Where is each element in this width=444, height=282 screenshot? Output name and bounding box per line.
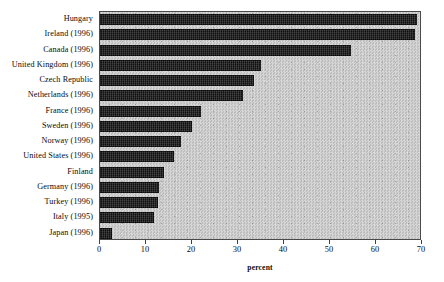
bar-row bbox=[100, 73, 421, 88]
bar-row bbox=[100, 58, 421, 73]
bar bbox=[100, 121, 192, 132]
bar-row bbox=[100, 134, 421, 149]
bar-row bbox=[100, 180, 421, 195]
x-axis-tick bbox=[421, 240, 422, 244]
bar bbox=[100, 212, 154, 223]
bar bbox=[100, 45, 351, 56]
category-label: United States (1996) bbox=[0, 148, 93, 163]
bar bbox=[100, 182, 159, 193]
x-axis-title: percent bbox=[99, 256, 421, 274]
x-axis-tick bbox=[145, 240, 146, 244]
bar-row bbox=[100, 165, 421, 180]
bar bbox=[100, 14, 417, 25]
bar-row bbox=[100, 195, 421, 210]
category-label: United Kingdom (1996) bbox=[0, 57, 93, 72]
bar bbox=[100, 228, 112, 239]
bar-row bbox=[100, 149, 421, 164]
category-label: Norway (1996) bbox=[0, 133, 93, 148]
x-axis-tick bbox=[283, 240, 284, 244]
category-label: Netherlands (1996) bbox=[0, 87, 93, 102]
x-axis-title-label: percent bbox=[247, 263, 272, 272]
x-axis-tick-label: 50 bbox=[314, 245, 344, 255]
bar-row bbox=[100, 210, 421, 225]
x-axis-tick bbox=[191, 240, 192, 244]
category-label: Finland bbox=[0, 164, 93, 179]
bar-chart: HungaryIreland (1996)Canada (1996)United… bbox=[0, 0, 444, 282]
plot-area bbox=[99, 11, 421, 240]
bar bbox=[100, 90, 243, 101]
x-axis-tick-label: 60 bbox=[360, 245, 390, 255]
bar-row bbox=[100, 88, 421, 103]
category-label: Canada (1996) bbox=[0, 42, 93, 57]
bar bbox=[100, 136, 181, 147]
bar bbox=[100, 197, 158, 208]
bar-row bbox=[100, 27, 421, 42]
bar bbox=[100, 151, 174, 162]
x-axis-tick-label: 0 bbox=[84, 245, 114, 255]
bar bbox=[100, 106, 201, 117]
x-axis-tick bbox=[237, 240, 238, 244]
x-axis-tick bbox=[329, 240, 330, 244]
bar-row bbox=[100, 119, 421, 134]
x-axis-tick-label: 40 bbox=[268, 245, 298, 255]
bar-row bbox=[100, 43, 421, 58]
category-label: Turkey (1996) bbox=[0, 194, 93, 209]
category-label: Germany (1996) bbox=[0, 179, 93, 194]
bar bbox=[100, 167, 164, 178]
bar bbox=[100, 29, 415, 40]
bar-row bbox=[100, 12, 421, 27]
x-axis-tick-label: 30 bbox=[222, 245, 252, 255]
category-label: Italy (1995) bbox=[0, 209, 93, 224]
category-label: Japan (1996) bbox=[0, 225, 93, 240]
bar bbox=[100, 75, 254, 86]
category-label: Ireland (1996) bbox=[0, 26, 93, 41]
category-label: Hungary bbox=[0, 11, 93, 26]
bar-row bbox=[100, 104, 421, 119]
category-label: Czech Republic bbox=[0, 72, 93, 87]
x-axis-tick-label: 70 bbox=[406, 245, 436, 255]
bar-row bbox=[100, 226, 421, 240]
x-axis-tick bbox=[375, 240, 376, 244]
x-axis-tick-label: 10 bbox=[130, 245, 160, 255]
x-axis-tick bbox=[99, 240, 100, 244]
category-label: Sweden (1996) bbox=[0, 118, 93, 133]
category-label: France (1996) bbox=[0, 103, 93, 118]
bar bbox=[100, 60, 261, 71]
x-axis-tick-label: 20 bbox=[176, 245, 206, 255]
